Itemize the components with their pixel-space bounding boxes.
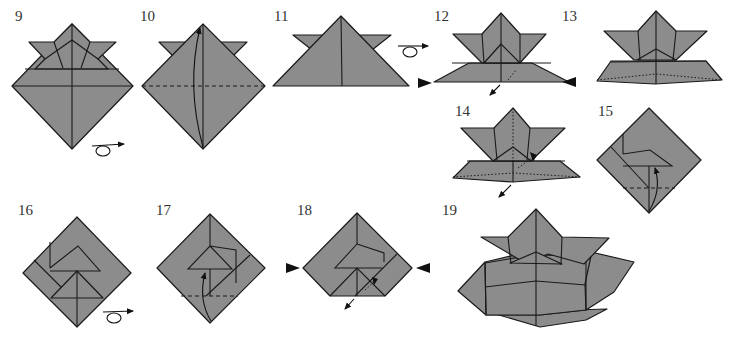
step-16-figure xyxy=(23,217,133,327)
turn-over-icon xyxy=(92,144,124,156)
step-13-figure xyxy=(597,11,722,84)
push-arrow-icon xyxy=(416,263,430,273)
step-11-figure xyxy=(273,16,432,88)
folding-diagram xyxy=(0,0,735,338)
push-arrow-icon xyxy=(562,77,576,87)
step-10-figure xyxy=(142,24,265,149)
step-12-figure xyxy=(434,13,576,95)
turn-over-icon xyxy=(398,46,428,57)
step-18-figure xyxy=(303,213,430,309)
turn-over-icon xyxy=(103,311,133,323)
push-arrow-icon xyxy=(418,78,432,88)
step-9-figure xyxy=(12,24,133,156)
step-14-figure xyxy=(453,108,580,197)
step-17-figure xyxy=(157,214,300,323)
step-19-figure xyxy=(458,209,634,327)
push-arrow-icon xyxy=(286,263,300,273)
step-15-figure xyxy=(597,108,701,213)
